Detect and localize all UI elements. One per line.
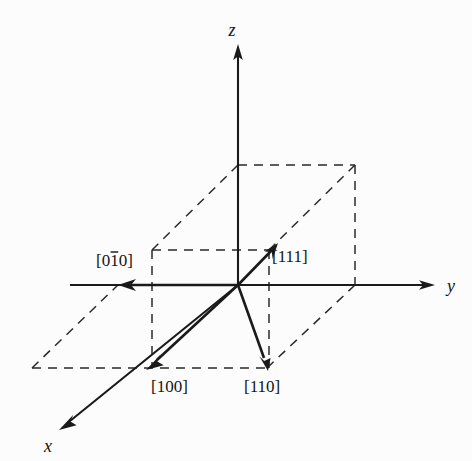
vector-111-line	[238, 250, 272, 285]
x-axis-label: x	[43, 436, 52, 456]
direction-label-0bar10: [010]	[96, 251, 133, 270]
vector-110-arrowhead	[259, 356, 270, 371]
cube-edge-base-left-diag	[32, 285, 118, 368]
direction-label-111: [111]	[272, 247, 308, 266]
diagram-canvas: z y x [111] [110] [100] [010]	[0, 0, 472, 461]
x-axis-line	[70, 285, 238, 421]
vector-110-line	[238, 285, 264, 358]
vector-100-line	[157, 285, 238, 360]
cube-edge-top-left-diag	[152, 165, 238, 250]
cube-edge-base-right-diag	[267, 285, 355, 368]
z-axis-label: z	[227, 20, 235, 40]
direction-label-100: [100]	[151, 377, 188, 396]
cube-edge-top-right-diag	[269, 165, 355, 250]
direction-vector-group	[118, 243, 278, 371]
y-axis-label: y	[445, 276, 455, 296]
direction-label-110: [110]	[244, 377, 280, 396]
axis-group	[59, 44, 435, 430]
unit-cell-dashed-edges	[32, 165, 355, 368]
crystal-direction-figure: z y x [111] [110] [100] [010]	[0, 0, 472, 461]
direction-label-0bar10-group: [010]	[96, 251, 133, 270]
